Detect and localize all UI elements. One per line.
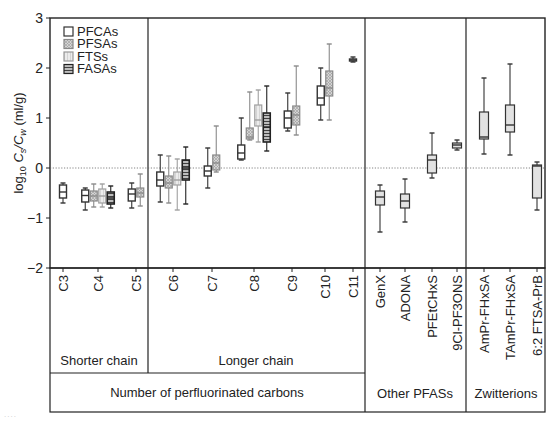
box-plot-chart: −2−10123log10 Cs/Cw (ml/g) PFCAsPFSAsFTS… bbox=[0, 0, 559, 422]
y-tick-label: 0 bbox=[35, 160, 43, 176]
x-tick-label: C7 bbox=[205, 275, 220, 292]
group-label-other-pfas: Other PFASs bbox=[377, 386, 453, 401]
x-tick-label: C8 bbox=[247, 275, 262, 292]
group-label-longer-chain: Longer chain bbox=[218, 353, 293, 368]
legend-item-fasas: FASAs bbox=[64, 61, 117, 76]
y-tick-label: 3 bbox=[35, 10, 43, 26]
x-tick-label: C4 bbox=[91, 275, 106, 292]
box-pfcas-c3 bbox=[60, 183, 67, 203]
legend-swatch bbox=[64, 52, 73, 61]
legend-swatch bbox=[64, 40, 73, 49]
box-other-genx bbox=[376, 185, 385, 232]
box-pfcas-c5 bbox=[128, 183, 135, 208]
box-ftss-c4 bbox=[99, 184, 106, 207]
footer-ghost-text: .... bbox=[4, 410, 17, 419]
legend: PFCAsPFSAsFTSsFASAs bbox=[64, 24, 119, 77]
x-tick-label: PFEtCHxS bbox=[425, 275, 440, 338]
x-axis-labels: C3C4C5C6C7C8C9C10C11GenXADONAPFEtCHxS9Cl… bbox=[50, 268, 545, 412]
x-tick-label: TAmPr-FHxSA bbox=[503, 275, 518, 360]
x-tick-label: GenX bbox=[373, 275, 388, 309]
plot-frame bbox=[50, 18, 545, 268]
box-other-pfetchxs bbox=[428, 133, 437, 178]
box-pfsas-c8 bbox=[246, 92, 253, 140]
y-tick-label: −1 bbox=[27, 210, 43, 226]
box-fasas-c8 bbox=[263, 86, 270, 151]
y-tick-label: 2 bbox=[35, 60, 43, 76]
boxes bbox=[60, 44, 542, 232]
y-tick-label: −2 bbox=[27, 260, 43, 276]
y-tick-label: 1 bbox=[35, 110, 43, 126]
box-ftss-c6 bbox=[174, 159, 181, 210]
box-ftss-c8 bbox=[255, 90, 262, 142]
box-pfcas-c11 bbox=[350, 57, 357, 62]
box-other-adona bbox=[401, 179, 410, 222]
box-pfsas-c10 bbox=[326, 44, 333, 120]
box-zwitterions-tampr-fhxsa bbox=[506, 64, 515, 155]
group-label-shorter-chain: Shorter chain bbox=[60, 353, 137, 368]
box-pfcas-c8 bbox=[238, 118, 245, 160]
box-fasas-c6 bbox=[182, 147, 189, 204]
box-zwitterions-6-2-ftsa-prb bbox=[533, 162, 542, 210]
x-tick-label: C10 bbox=[318, 275, 333, 299]
x-tick-label: C3 bbox=[56, 275, 71, 292]
box-pfcas-c10 bbox=[317, 68, 324, 120]
x-tick-label: C6 bbox=[166, 275, 181, 292]
box-pfsas-c5 bbox=[137, 174, 144, 206]
x-tick-label: ADONA bbox=[398, 275, 413, 322]
box-pfcas-c4 bbox=[82, 188, 89, 210]
x-tick-label: 9Cl-PF3ONS bbox=[450, 275, 465, 351]
legend-label: FASAs bbox=[77, 61, 117, 76]
box-pfsas-c7 bbox=[213, 126, 220, 172]
box-pfcas-c7 bbox=[204, 148, 211, 188]
x-tick-label: C5 bbox=[129, 275, 144, 292]
box-pfsas-c6 bbox=[165, 156, 172, 203]
x-tick-label: C9 bbox=[285, 275, 300, 292]
box-zwitterions-ampr-fhxsa bbox=[480, 78, 489, 154]
x-tick-label: 6:2 FTSA-PrB bbox=[530, 275, 545, 356]
group-label-zwitterions: Zwitterions bbox=[475, 386, 538, 401]
box-pfcas-c9 bbox=[284, 93, 291, 131]
legend-swatch bbox=[64, 65, 73, 74]
box-pfsas-c4 bbox=[90, 184, 97, 207]
box-pfcas-c6 bbox=[157, 155, 164, 202]
box-pfsas-c9 bbox=[293, 66, 300, 135]
box-fasas-c4 bbox=[107, 186, 114, 208]
y-axis-label: log10 Cs/Cw (ml/g) bbox=[11, 92, 28, 193]
box-other-9cl-pf3ons bbox=[453, 140, 462, 150]
legend-swatch bbox=[64, 27, 73, 36]
group-label-perfluorinated-carbons: Number of perfluorinated carbons bbox=[110, 385, 304, 400]
x-tick-label: AmPr-FHxSA bbox=[477, 275, 492, 353]
x-tick-label: C11 bbox=[346, 275, 361, 298]
